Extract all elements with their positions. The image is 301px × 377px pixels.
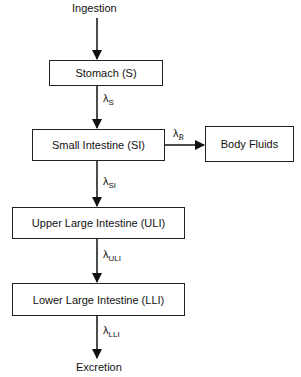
excretion-label: Excretion — [76, 361, 122, 373]
lower-large-intestine-node: Lower Large Intestine (LLI) — [12, 283, 185, 316]
rate-lower-large-intestine: λLLI — [103, 324, 120, 339]
arrows-layer — [0, 0, 301, 377]
upper-large-intestine-node: Upper Large Intestine (ULI) — [12, 207, 185, 239]
stomach-node: Stomach (S) — [49, 60, 163, 86]
lower-large-intestine-label: Lower Large Intestine (LLI) — [33, 294, 164, 306]
stomach-label: Stomach (S) — [75, 67, 136, 79]
small-intestine-node: Small Intestine (SI) — [32, 129, 165, 161]
upper-large-intestine-label: Upper Large Intestine (ULI) — [32, 217, 165, 229]
body-fluids-node: Body Fluids — [205, 126, 294, 162]
rate-small-intestine: λSI — [103, 175, 116, 190]
body-fluids-label: Body Fluids — [221, 138, 278, 150]
rate-upper-large-intestine: λULI — [103, 248, 121, 263]
rate-body: λB — [173, 127, 183, 142]
rate-stomach: λS — [103, 92, 114, 107]
small-intestine-label: Small Intestine (SI) — [52, 139, 145, 151]
ingestion-label: Ingestion — [72, 2, 117, 14]
